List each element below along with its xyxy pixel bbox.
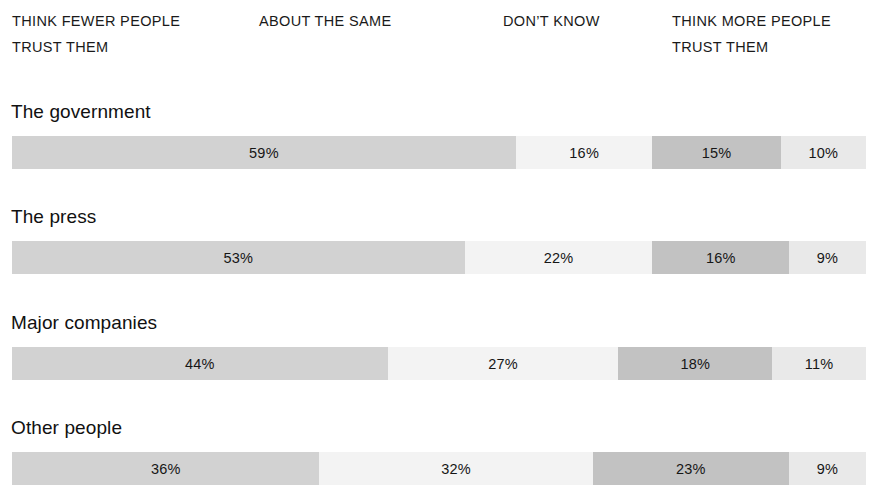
segment-value-label: 23% xyxy=(676,461,706,477)
segment-value-label: 9% xyxy=(817,461,838,477)
stacked-bar: 36% 32% 23% 9% xyxy=(12,452,866,485)
bar-segment-about-the-same: 16% xyxy=(516,136,653,169)
segment-value-label: 22% xyxy=(544,250,574,266)
bar-segment-about-the-same: 22% xyxy=(465,241,653,274)
segment-value-label: 10% xyxy=(808,145,838,161)
bar-segment-dont-know: 18% xyxy=(618,347,772,380)
row-label: Major companies xyxy=(11,311,866,335)
segment-value-label: 53% xyxy=(223,250,253,266)
bar-segment-about-the-same: 32% xyxy=(319,452,592,485)
segment-value-label: 16% xyxy=(706,250,736,266)
segment-value-label: 16% xyxy=(569,145,599,161)
bar-segment-think-fewer: 44% xyxy=(12,347,388,380)
stacked-bar: 53% 22% 16% 9% xyxy=(12,241,866,274)
bar-segment-think-fewer: 59% xyxy=(12,136,516,169)
chart-row: Other people 36% 32% 23% 9% xyxy=(12,416,866,485)
stacked-bar: 59% 16% 15% 10% xyxy=(12,136,866,169)
chart-rows: The government 59% 16% 15% 10% The press xyxy=(0,0,876,490)
segment-value-label: 9% xyxy=(817,250,838,266)
bar-segment-think-more: 9% xyxy=(789,241,866,274)
chart-row: Major companies 44% 27% 18% 11% xyxy=(12,311,866,380)
bar-segment-dont-know: 23% xyxy=(593,452,789,485)
segment-value-label: 59% xyxy=(249,145,279,161)
bar-segment-think-fewer: 36% xyxy=(12,452,319,485)
bar-segment-think-more: 11% xyxy=(772,347,866,380)
chart-row: The government 59% 16% 15% 10% xyxy=(12,100,866,169)
segment-value-label: 27% xyxy=(488,356,518,372)
segment-value-label: 32% xyxy=(441,461,471,477)
bar-segment-about-the-same: 27% xyxy=(388,347,619,380)
segment-value-label: 11% xyxy=(805,356,834,372)
chart-row: The press 53% 22% 16% 9% xyxy=(12,205,866,274)
row-label: Other people xyxy=(11,416,866,440)
bar-segment-dont-know: 15% xyxy=(652,136,780,169)
bar-segment-think-more: 10% xyxy=(781,136,866,169)
stacked-bar: 44% 27% 18% 11% xyxy=(12,347,866,380)
segment-value-label: 36% xyxy=(151,461,181,477)
bar-segment-think-more: 9% xyxy=(789,452,866,485)
bar-segment-dont-know: 16% xyxy=(652,241,789,274)
row-label: The government xyxy=(11,100,866,124)
segment-value-label: 44% xyxy=(185,356,215,372)
stacked-bar-chart: THINK FEWER PEOPLE TRUST THEM ABOUT THE … xyxy=(0,0,876,490)
row-label: The press xyxy=(11,205,866,229)
segment-value-label: 15% xyxy=(702,145,732,161)
segment-value-label: 18% xyxy=(680,356,710,372)
bar-segment-think-fewer: 53% xyxy=(12,241,465,274)
